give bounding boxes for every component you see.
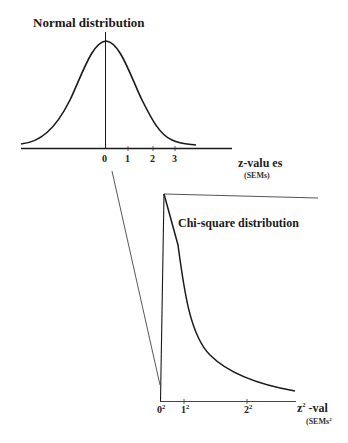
normal-tick-label-1: 1 [125,153,130,164]
normal-tick-label-3: 3 [172,153,177,164]
chisq-tick-label-0: 02 [157,403,165,415]
chisquare-distribution-panel: Chi-square distribution 02 12 22 z2 -val… [157,194,332,426]
normal-tick-label-0: 0 [102,153,107,164]
chisq-tick-label-1: 12 [181,403,189,415]
normal-tick-label-2: 2 [150,153,155,164]
chisq-tick-label-2: 22 [244,403,252,415]
mapping-line-left [112,171,160,385]
chisq-axis-unit: (SEMs2 [306,417,332,426]
chisq-top-line [164,194,318,198]
chisq-axis-label: z2 -val [297,401,329,415]
normal-distribution-panel: Normal distribution 0 1 2 3 z-valu es (S… [21,15,283,180]
normal-axis-label: z-valu es [238,156,283,170]
normal-curve [21,41,196,145]
chisq-left-axis [161,194,165,401]
normal-title: Normal distribution [33,15,145,30]
distribution-diagram: Normal distribution 0 1 2 3 z-valu es (S… [0,0,348,443]
chisq-title: Chi-square distribution [178,216,299,230]
normal-axis-unit: (SEMs) [244,171,270,180]
